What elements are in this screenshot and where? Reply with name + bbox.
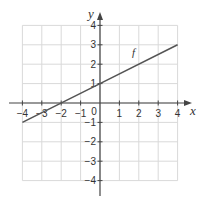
origin-label: 0 [91,106,97,117]
function-label: f [132,46,137,58]
y-tick-label: 3 [90,39,96,50]
y-tick-label: −3 [85,156,97,167]
x-tick-label: −2 [55,108,67,119]
axes [9,12,192,196]
y-tick-label: −2 [85,136,97,147]
x-tick-label: 1 [117,108,123,119]
x-tick-label: 3 [155,108,161,119]
y-tick-label: 4 [90,20,96,31]
x-tick-label: 4 [175,108,181,119]
y-tick-label: −4 [85,175,97,186]
y-axis-label: y [86,6,94,21]
x-tick-label: −4 [17,108,29,119]
y-axis-arrow-icon [97,12,103,20]
y-tick-label: 2 [90,59,96,70]
x-axis-label: x [189,103,196,118]
function-graph: −4−3−2−112340−4−3−2−11234 f x y [0,0,201,205]
x-tick-label: 2 [136,108,142,119]
y-tick-label: −1 [85,117,97,128]
